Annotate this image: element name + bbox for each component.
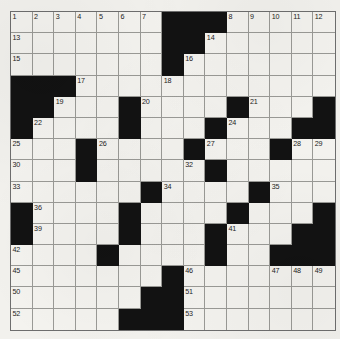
letter-cell[interactable]: [227, 76, 249, 97]
letter-cell[interactable]: [249, 309, 271, 330]
letter-cell[interactable]: [162, 118, 184, 139]
letter-cell[interactable]: [249, 203, 271, 224]
letter-cell[interactable]: [54, 203, 76, 224]
letter-cell[interactable]: [270, 54, 292, 75]
letter-cell[interactable]: [76, 118, 98, 139]
letter-cell[interactable]: [313, 54, 335, 75]
letter-cell[interactable]: [292, 97, 314, 118]
letter-cell[interactable]: [184, 224, 206, 245]
letter-cell[interactable]: [119, 287, 141, 308]
letter-cell[interactable]: 4: [76, 12, 98, 33]
letter-cell[interactable]: [249, 160, 271, 181]
letter-cell[interactable]: [76, 203, 98, 224]
letter-cell[interactable]: 49: [313, 266, 335, 287]
letter-cell[interactable]: [33, 266, 55, 287]
letter-cell[interactable]: [270, 76, 292, 97]
letter-cell[interactable]: [313, 287, 335, 308]
letter-cell[interactable]: [249, 33, 271, 54]
letter-cell[interactable]: 6: [119, 12, 141, 33]
letter-cell[interactable]: [119, 76, 141, 97]
letter-cell[interactable]: 34: [162, 182, 184, 203]
letter-cell[interactable]: [119, 139, 141, 160]
letter-cell[interactable]: [33, 309, 55, 330]
letter-cell[interactable]: [33, 182, 55, 203]
letter-cell[interactable]: [54, 54, 76, 75]
letter-cell[interactable]: [54, 287, 76, 308]
letter-cell[interactable]: 53: [184, 309, 206, 330]
letter-cell[interactable]: [270, 203, 292, 224]
letter-cell[interactable]: [270, 118, 292, 139]
letter-cell[interactable]: [141, 266, 163, 287]
letter-cell[interactable]: 29: [313, 139, 335, 160]
letter-cell[interactable]: [184, 203, 206, 224]
letter-cell[interactable]: 15: [11, 54, 33, 75]
letter-cell[interactable]: [227, 33, 249, 54]
letter-cell[interactable]: [76, 224, 98, 245]
letter-cell[interactable]: [76, 54, 98, 75]
letter-cell[interactable]: [119, 266, 141, 287]
letter-cell[interactable]: [141, 118, 163, 139]
letter-cell[interactable]: [33, 54, 55, 75]
letter-cell[interactable]: 12: [313, 12, 335, 33]
letter-cell[interactable]: [227, 309, 249, 330]
letter-cell[interactable]: [33, 245, 55, 266]
letter-cell[interactable]: 9: [249, 12, 271, 33]
letter-cell[interactable]: 39: [33, 224, 55, 245]
letter-cell[interactable]: [141, 139, 163, 160]
letter-cell[interactable]: [97, 160, 119, 181]
letter-cell[interactable]: [54, 224, 76, 245]
letter-cell[interactable]: [292, 287, 314, 308]
letter-cell[interactable]: 11: [292, 12, 314, 33]
letter-cell[interactable]: [162, 245, 184, 266]
letter-cell[interactable]: [249, 266, 271, 287]
letter-cell[interactable]: [162, 224, 184, 245]
letter-cell[interactable]: [97, 224, 119, 245]
letter-cell[interactable]: [76, 287, 98, 308]
letter-cell[interactable]: 41: [227, 224, 249, 245]
letter-cell[interactable]: 3: [54, 12, 76, 33]
letter-cell[interactable]: [292, 203, 314, 224]
letter-cell[interactable]: 36: [33, 203, 55, 224]
letter-cell[interactable]: [292, 160, 314, 181]
letter-cell[interactable]: 14: [205, 33, 227, 54]
letter-cell[interactable]: [141, 76, 163, 97]
letter-cell[interactable]: 52: [11, 309, 33, 330]
letter-cell[interactable]: [54, 118, 76, 139]
letter-cell[interactable]: [270, 160, 292, 181]
letter-cell[interactable]: [249, 76, 271, 97]
letter-cell[interactable]: 20: [141, 97, 163, 118]
letter-cell[interactable]: [97, 287, 119, 308]
letter-cell[interactable]: 32: [184, 160, 206, 181]
letter-cell[interactable]: [97, 118, 119, 139]
letter-cell[interactable]: [54, 245, 76, 266]
letter-cell[interactable]: [227, 287, 249, 308]
letter-cell[interactable]: 50: [11, 287, 33, 308]
letter-cell[interactable]: [227, 182, 249, 203]
letter-cell[interactable]: [54, 309, 76, 330]
letter-cell[interactable]: [205, 54, 227, 75]
letter-cell[interactable]: [97, 309, 119, 330]
letter-cell[interactable]: [205, 287, 227, 308]
letter-cell[interactable]: [97, 182, 119, 203]
letter-cell[interactable]: [292, 182, 314, 203]
letter-cell[interactable]: 27: [205, 139, 227, 160]
letter-cell[interactable]: [54, 33, 76, 54]
letter-cell[interactable]: [292, 33, 314, 54]
letter-cell[interactable]: [205, 266, 227, 287]
letter-cell[interactable]: [292, 309, 314, 330]
letter-cell[interactable]: [141, 54, 163, 75]
letter-cell[interactable]: [97, 266, 119, 287]
letter-cell[interactable]: [313, 76, 335, 97]
letter-cell[interactable]: 8: [227, 12, 249, 33]
letter-cell[interactable]: 19: [54, 97, 76, 118]
letter-cell[interactable]: [119, 160, 141, 181]
letter-cell[interactable]: [249, 224, 271, 245]
letter-cell[interactable]: 33: [11, 182, 33, 203]
letter-cell[interactable]: [97, 97, 119, 118]
letter-cell[interactable]: 48: [292, 266, 314, 287]
letter-cell[interactable]: [313, 309, 335, 330]
letter-cell[interactable]: [249, 245, 271, 266]
letter-cell[interactable]: [33, 160, 55, 181]
letter-cell[interactable]: [184, 97, 206, 118]
letter-cell[interactable]: [270, 33, 292, 54]
